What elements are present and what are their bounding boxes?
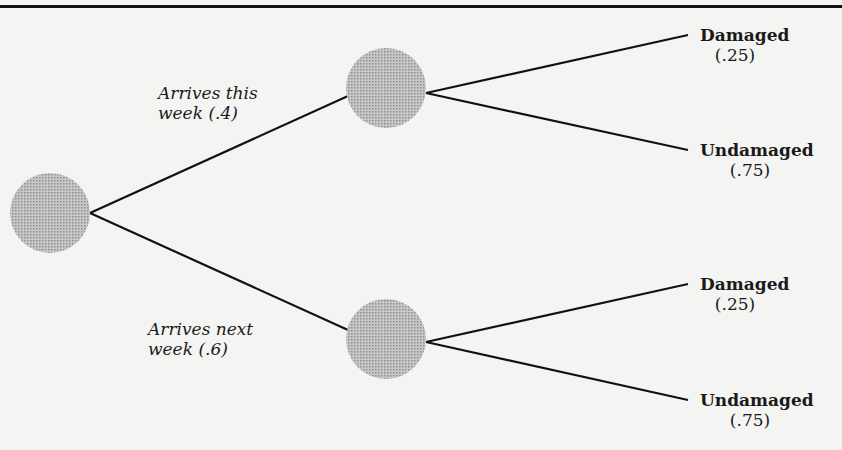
outcome-line-1-undamaged [426, 93, 688, 150]
outcome-1-damaged: Damaged (.25) [700, 25, 770, 65]
branch-label-line2: week (.4) [158, 103, 258, 123]
outcome-probability: (.75) [700, 160, 800, 180]
outcome-probability: (.25) [700, 294, 770, 314]
outcome-line-2-undamaged [426, 342, 688, 400]
branch-line-next-week [90, 213, 348, 330]
branch-label-next-week: Arrives next week (.6) [148, 319, 253, 359]
outcome-probability: (.25) [700, 45, 770, 65]
branch-label-line1: Arrives next [148, 319, 253, 339]
tree-lines [0, 0, 842, 450]
outcome-1-undamaged: Undamaged (.75) [700, 140, 800, 180]
branch-label-this-week: Arrives this week (.4) [158, 83, 258, 123]
outcome-name: Damaged [700, 25, 770, 45]
outcome-name: Damaged [700, 274, 770, 294]
chance-node-next-week [346, 299, 426, 379]
outcome-2-undamaged: Undamaged (.75) [700, 390, 800, 430]
outcome-name: Undamaged [700, 390, 800, 410]
outcome-line-1-damaged [426, 35, 688, 93]
outcome-probability: (.75) [700, 410, 800, 430]
chance-node-this-week [346, 48, 426, 128]
outcome-name: Undamaged [700, 140, 800, 160]
branch-label-line2: week (.6) [148, 339, 253, 359]
outcome-2-damaged: Damaged (.25) [700, 274, 770, 314]
branch-label-line1: Arrives this [158, 83, 258, 103]
root-node [10, 173, 90, 253]
outcome-line-2-damaged [426, 284, 688, 342]
